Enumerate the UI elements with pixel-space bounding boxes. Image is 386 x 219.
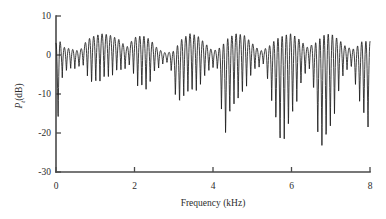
y-tick-label-m30: -30	[38, 167, 51, 177]
chart-figure: Pt(dB) 10 0 -10 -20 -30	[0, 0, 386, 219]
spectrum-curve	[56, 34, 370, 146]
y-tick-label-10: 10	[42, 11, 52, 21]
chart-svg: Pt(dB) 10 0 -10 -20 -30	[0, 0, 386, 219]
y-axis-title-text: Pt(dB)	[14, 83, 27, 109]
y-axis-title-unit: (dB)	[14, 83, 25, 100]
x-axis-tick-labels: 0 2 4 6 8	[54, 181, 373, 191]
x-axis-title: Frequency (kHz)	[181, 198, 246, 209]
x-tick-label-4: 4	[211, 181, 216, 191]
y-tick-label-m20: -20	[38, 128, 51, 138]
x-tick-label-0: 0	[54, 181, 59, 191]
x-tick-label-2: 2	[132, 181, 137, 191]
y-axis-title: Pt(dB)	[14, 83, 27, 109]
y-tick-label-m10: -10	[38, 89, 51, 99]
y-axis-tick-labels: 10 0 -10 -20 -30	[38, 11, 51, 177]
x-tick-label-8: 8	[368, 181, 373, 191]
y-tick-label-0: 0	[46, 50, 51, 60]
x-tick-label-6: 6	[289, 181, 294, 191]
